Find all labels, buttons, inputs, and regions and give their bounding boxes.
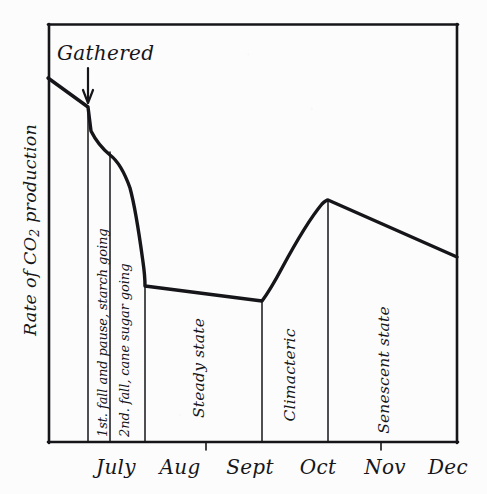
y-axis-title-subscript: 2 bbox=[27, 229, 42, 238]
gathered-label: Gathered bbox=[57, 41, 154, 65]
band-label-senescent-state: Senescent state bbox=[375, 306, 393, 434]
band-label-first-fall: 1st. fall and pause, starch going bbox=[95, 229, 110, 437]
band-labels: 1st. fall and pause, starch going 2nd. f… bbox=[95, 229, 394, 438]
x-axis-labels: July Aug Sept Oct Nov Dec bbox=[92, 455, 468, 479]
x-tick-label-july: July bbox=[92, 455, 136, 479]
x-tick-label-aug: Aug bbox=[157, 455, 200, 479]
band-label-climacteric: Climacteric bbox=[281, 328, 299, 421]
x-tick-label-oct: Oct bbox=[300, 455, 337, 479]
y-axis-title-group: Rate of CO2 production bbox=[20, 124, 42, 337]
band-label-second-fall: 2nd. fall, cane sugar going bbox=[117, 264, 132, 438]
co2-production-chart: Gathered 1st. fall and pause, starch goi… bbox=[0, 0, 487, 494]
x-tick-label-dec: Dec bbox=[427, 455, 468, 479]
x-tick-label-sept: Sept bbox=[226, 455, 274, 479]
band-label-steady-state: Steady state bbox=[190, 318, 208, 418]
y-axis-title: Rate of CO2 production bbox=[20, 124, 42, 337]
figure-container: Gathered 1st. fall and pause, starch goi… bbox=[0, 0, 487, 494]
y-axis-title-suffix: production bbox=[20, 124, 40, 229]
y-axis-title-prefix: Rate of CO bbox=[20, 237, 40, 337]
x-tick-label-nov: Nov bbox=[363, 455, 406, 479]
down-arrow-icon bbox=[83, 68, 93, 103]
